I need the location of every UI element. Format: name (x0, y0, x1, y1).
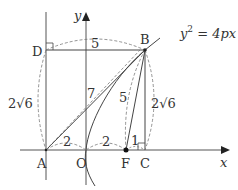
y-axis-arrow-icon (82, 12, 90, 21)
label-F: F (121, 156, 130, 171)
length-BF: 5 (119, 90, 127, 105)
length-AB: 7 (87, 86, 95, 101)
curve-label: y2 = 4px (179, 24, 237, 41)
parabola-diagram: y x D B A O F C y2 = 4px 5 2√6 7 5 2√6 2… (0, 0, 238, 190)
label-A: A (36, 156, 47, 171)
label-C: C (140, 156, 150, 171)
point-F (124, 148, 129, 153)
length-DB: 5 (91, 36, 99, 51)
arc-AD (38, 50, 46, 150)
point-A (45, 149, 48, 152)
length-FC: 1 (131, 133, 139, 148)
label-D: D (32, 44, 42, 59)
length-BC: 2√6 (151, 96, 176, 111)
label-B: B (140, 32, 150, 47)
right-angle-D-icon (46, 43, 53, 50)
x-axis-label: x (220, 155, 228, 170)
length-AO: 2 (63, 134, 71, 149)
y-axis-label: y (73, 8, 82, 23)
point-B (143, 48, 147, 52)
x-axis-arrow-icon (221, 146, 230, 154)
label-O: O (76, 156, 87, 171)
length-OF: 2 (102, 134, 110, 149)
length-AD: 2√6 (8, 96, 33, 111)
